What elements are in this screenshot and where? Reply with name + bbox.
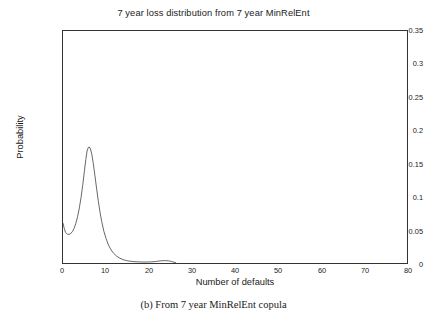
y-axis-title: Probability [15,77,25,197]
chart-title: 7 year loss distribution from 7 year Min… [0,8,427,18]
plot-area [62,30,408,264]
x-tick-label-60: 60 [318,266,326,275]
x-tick-label-10: 10 [101,266,109,275]
x-tick-label-30: 30 [188,266,196,275]
x-tick-label-0: 0 [60,266,64,275]
x-axis-title: Number of defaults [62,277,408,287]
figure-caption: (b) From 7 year MinRelEnt copula [0,299,427,310]
figure-container: 7 year loss distribution from 7 year Min… [0,0,427,320]
x-tick-label-70: 70 [361,266,369,275]
loss-distribution-curve-svg [63,31,407,263]
x-tick-label-80: 80 [404,266,412,275]
loss-distribution-curve [63,147,176,263]
x-tick-label-50: 50 [274,266,282,275]
x-tick-label-20: 20 [145,266,153,275]
x-tick-label-40: 40 [231,266,239,275]
